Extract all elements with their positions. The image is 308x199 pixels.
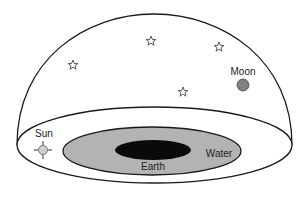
- cosmology-diagram: Moon Sun Water Earth: [0, 0, 308, 199]
- moon-label: Moon: [230, 66, 255, 77]
- earth-region: [115, 140, 191, 160]
- water-label: Water: [206, 148, 233, 159]
- moon-icon: [237, 79, 249, 91]
- sun-label: Sun: [35, 128, 53, 139]
- earth-label: Earth: [141, 161, 165, 172]
